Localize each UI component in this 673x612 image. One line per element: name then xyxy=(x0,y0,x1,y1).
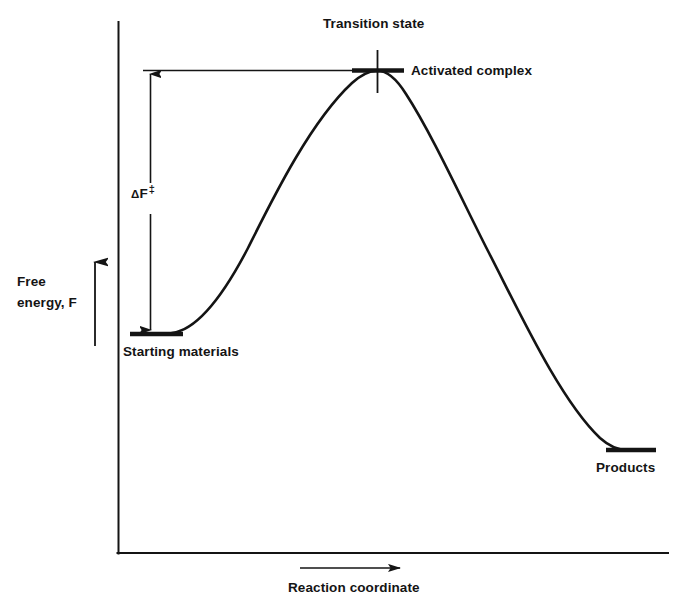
y-axis-label-line2: energy, F xyxy=(17,295,77,310)
activation-energy-label: ΔF‡ xyxy=(131,186,155,202)
double-dagger-symbol: ‡ xyxy=(149,183,155,195)
free-energy-curve xyxy=(172,71,627,451)
y-axis-label: Freeenergy, F xyxy=(17,272,89,314)
free-energy-symbol: F xyxy=(139,186,147,201)
axis-lines xyxy=(118,22,669,554)
products-label: Products xyxy=(596,460,655,476)
activated-complex-label: Activated complex xyxy=(411,63,532,79)
x-axis-label: Reaction coordinate xyxy=(288,580,420,596)
reaction-coordinate-figure: Transition state Activated complex Start… xyxy=(0,0,673,612)
starting-materials-label: Starting materials xyxy=(123,344,239,360)
y-axis-label-line1: Free xyxy=(17,274,46,289)
figure-canvas xyxy=(0,0,673,612)
transition-state-label: Transition state xyxy=(323,16,424,32)
